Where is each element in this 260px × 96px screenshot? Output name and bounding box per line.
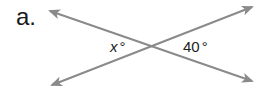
intersecting-lines-diagram: a. x° 40° [0, 0, 260, 96]
angle-label-x: x° [109, 38, 126, 55]
angle-label-40: 40° [183, 38, 208, 55]
line-2 [52, 7, 252, 85]
problem-label: a. [16, 3, 36, 30]
degree-symbol: ° [120, 38, 126, 55]
degree-symbol: ° [202, 38, 208, 55]
angle-value: 40 [183, 38, 200, 55]
angle-variable: x [109, 38, 118, 55]
diagram-canvas: a. x° 40° [0, 0, 260, 96]
